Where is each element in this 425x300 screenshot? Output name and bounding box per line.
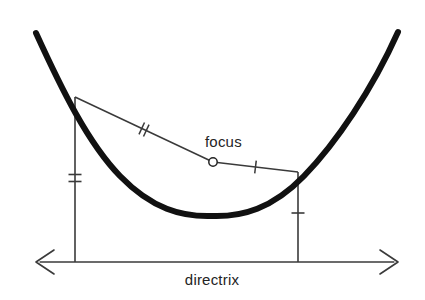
directrix-label: directrix: [185, 271, 240, 288]
tick-mark-focal-radius-left-1: [139, 123, 145, 135]
focus-label: focus: [205, 133, 242, 150]
focus-point-marker: [209, 158, 217, 166]
tick-mark-focal-radius-right-1: [255, 161, 257, 174]
diagram-canvas: focus directrix: [0, 0, 425, 300]
focal-radius-right-group: [213, 161, 298, 174]
focal-radius-left-segment: [75, 97, 213, 162]
tick-mark-focal-radius-left-2: [143, 125, 149, 137]
parabola-curve: [36, 32, 398, 216]
parabola-diagram: focus directrix: [0, 0, 425, 300]
focal-radius-left-group: [75, 97, 213, 162]
